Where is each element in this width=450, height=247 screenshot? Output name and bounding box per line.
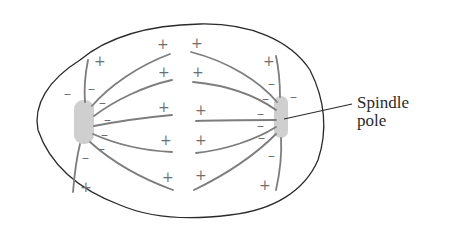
svg-text:–: – xyxy=(104,111,111,127)
svg-text:–: – xyxy=(268,75,275,91)
svg-text:+: + xyxy=(192,64,204,80)
svg-text:–: – xyxy=(64,85,71,101)
minus-signs: – – – – – – – – – – – – – – xyxy=(64,75,297,165)
svg-text:+: + xyxy=(191,35,203,51)
svg-text:+: + xyxy=(157,36,169,52)
left-spindle-pole xyxy=(74,100,94,144)
svg-text:+: + xyxy=(160,132,172,148)
svg-text:+: + xyxy=(263,53,275,69)
svg-text:–: – xyxy=(258,129,265,145)
svg-text:–: – xyxy=(262,90,269,106)
svg-text:–: – xyxy=(88,80,95,96)
svg-text:+: + xyxy=(94,53,106,69)
svg-text:–: – xyxy=(82,149,89,165)
svg-text:+: + xyxy=(259,177,271,193)
svg-text:+: + xyxy=(158,64,170,80)
svg-text:+: + xyxy=(80,179,92,195)
svg-text:+: + xyxy=(162,169,174,185)
spindle-pole-label-line1: Spindle xyxy=(357,94,409,112)
svg-text:+: + xyxy=(195,132,207,148)
svg-text:+: + xyxy=(195,167,207,183)
spindle-pole-label: Spindle pole xyxy=(357,94,409,130)
spindle-pole-leader-line xyxy=(284,104,352,119)
svg-text:–: – xyxy=(98,140,105,156)
svg-text:–: – xyxy=(290,88,297,104)
svg-text:–: – xyxy=(99,94,106,110)
svg-text:+: + xyxy=(158,99,170,115)
spindle-pole-label-line2: pole xyxy=(357,112,409,130)
svg-text:+: + xyxy=(195,102,207,118)
svg-text:–: – xyxy=(268,147,275,163)
